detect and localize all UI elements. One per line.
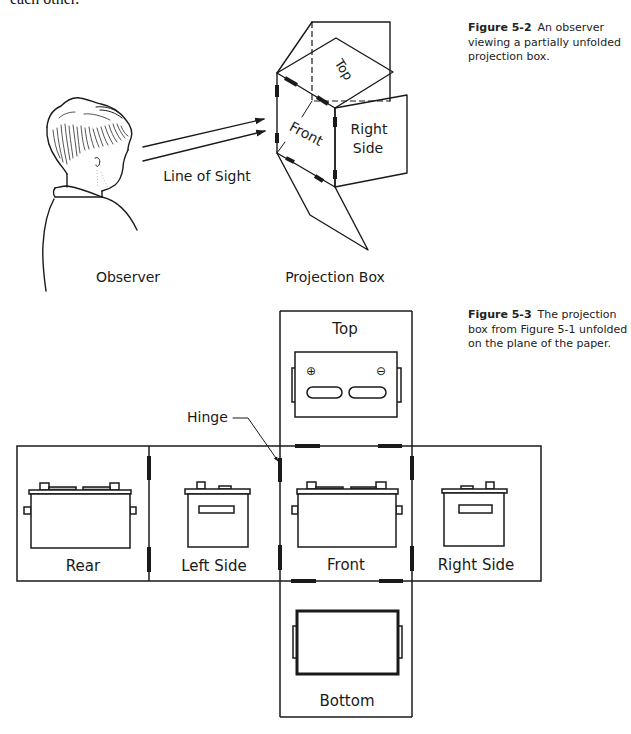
- battery-left-side-view: [185, 482, 250, 547]
- projection-box-3d: Top Front Right Side: [277, 22, 407, 250]
- observer-label: Observer: [96, 269, 160, 285]
- hair-strands: [53, 112, 128, 164]
- battery-top-view: ⊕ ⊖: [292, 352, 401, 417]
- hinge-leader-arrow: [233, 418, 278, 461]
- rear-view-label: Rear: [66, 557, 101, 575]
- bottom-view-label: Bottom: [319, 692, 374, 710]
- figure-drawings: Line of Sight: [0, 0, 631, 734]
- hinge-label: Hinge: [187, 409, 228, 425]
- battery-front-view: [292, 482, 402, 547]
- negative-terminal-icon: ⊖: [376, 364, 386, 378]
- figure-5-2: Line of Sight: [43, 22, 407, 291]
- observer-illustration: [43, 98, 137, 291]
- battery-right-side-view: [442, 482, 507, 546]
- right-side-view-label: Right Side: [438, 556, 515, 574]
- projection-box-label: Projection Box: [285, 269, 385, 285]
- line-of-sight-arrows: [143, 119, 265, 161]
- battery-rear-view: [24, 483, 136, 548]
- front-view-label: Front: [327, 556, 365, 574]
- box-right-label: Right: [351, 121, 388, 137]
- positive-terminal-icon: ⊕: [306, 364, 316, 378]
- figure-5-3: Hinge ⊕ ⊖ Top: [17, 311, 541, 717]
- box-side-label: Side: [353, 140, 383, 156]
- left-side-view-label: Left Side: [181, 557, 246, 575]
- box-front-label: Front: [287, 118, 326, 149]
- battery-bottom-view: [293, 611, 402, 674]
- box-top-label: Top: [331, 55, 356, 82]
- textbook-page: each other. Figure 5-2An observer viewin…: [0, 0, 631, 734]
- line-of-sight-label: Line of Sight: [163, 168, 251, 184]
- top-view-label: Top: [331, 320, 357, 338]
